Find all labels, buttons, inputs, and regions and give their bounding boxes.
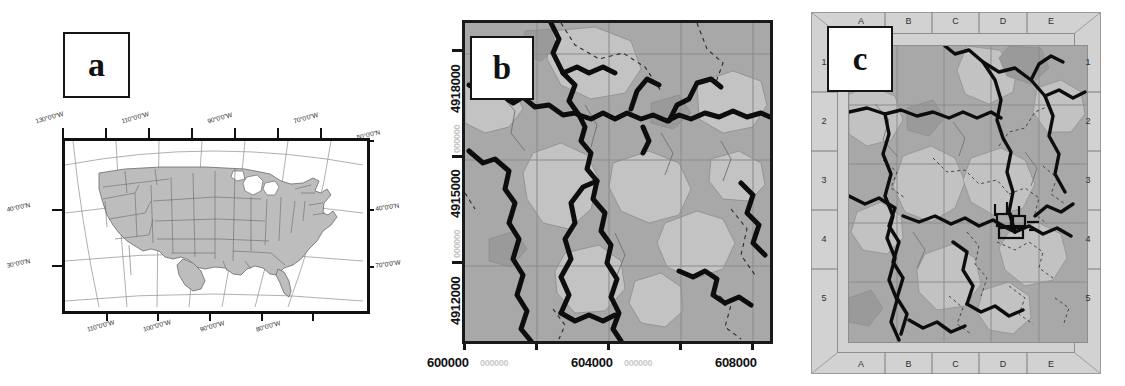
panel-b-label-text: b [493,52,511,85]
c-row-label-right-2: 2 [1075,117,1101,126]
c-row-label-right-5: 5 [1075,294,1101,303]
c-col-label-bottom-c: C [932,360,979,369]
a-axis-label-top-2: 110°0'0"W [121,110,150,124]
a-axis-label-left-2: 30°0'0"N [6,257,31,269]
b-yaxis-label-4918000: 4918000 [448,64,463,113]
figure-three-panel-map: a 130°0'0"W 110°0'0"W 90°0'0"W 70°0'0"W … [0,0,1125,386]
b-yaxis-label-4912000: 4912000 [448,276,463,325]
a-tick-top-3 [148,128,150,138]
a-tick-top-5 [234,128,236,138]
a-tick-top-1 [62,128,64,138]
b-xaxis-label-604000: 604000 [571,355,613,370]
c-col-label-top-b: B [885,17,932,26]
a-axis-label-right-2: 40°0'0"N [375,202,399,212]
panel-a-label-box: a [63,32,130,98]
c-col-label-bottom-e: E [1027,360,1075,369]
c-col-label-top-c: C [932,17,979,26]
c-col-label-bottom-a: A [837,360,885,369]
panel-b-label-box: b [470,36,534,100]
c-row-label-left-4: 4 [811,235,837,244]
a-tick-top-6 [277,128,279,138]
a-axis-label-bottom-4: 80°0'0"W [255,319,281,333]
panel-a-label-text: a [88,48,105,82]
a-axis-label-bottom-3: 90°0'0"W [199,319,225,333]
b-yaxis-minor-label-1: 000000 [452,125,462,153]
b-xaxis-minor-label-2: 000000 [624,358,652,368]
panel-b: 4918000 000000 4915000 000000 4912000 60… [430,0,800,386]
b-xaxis-minor-label-1: 000000 [480,358,508,368]
a-axis-label-left-1: 40°0'0"N [6,201,31,213]
c-row-label-right-4: 4 [1075,235,1101,244]
c-col-label-bottom-d: D [979,360,1027,369]
a-tick-top-4 [191,128,193,138]
c-row-label-left-5: 5 [811,294,837,303]
a-axis-label-right-3: 70°0'0"W [375,258,401,268]
panel-c: A B C D E A B C D E 1 2 3 4 5 1 2 3 4 5 [800,0,1125,386]
panel-c-label-box: c [827,26,893,92]
a-map-frame [62,138,370,314]
c-row-label-right-3: 3 [1075,176,1101,185]
a-axis-label-top-4: 70°0'0"W [293,111,319,125]
c-col-label-top-e: E [1027,17,1075,26]
b-yaxis-label-4915000: 4915000 [448,169,463,218]
b-xaxis-label-608000: 608000 [715,355,757,370]
c-row-label-left-3: 3 [811,176,837,185]
panel-c-label-text: c [853,43,868,76]
c-col-label-top-d: D [979,17,1027,26]
c-col-label-top-a: A [837,17,885,26]
a-axis-label-bottom-1: 110°0'0"W [86,318,115,332]
b-yaxis-minor-label-2: 000000 [452,230,462,258]
b-xaxis-label-600000: 600000 [427,355,469,370]
a-usa-map-svg [65,141,363,307]
a-tick-top-7 [320,128,322,138]
panel-a: a 130°0'0"W 110°0'0"W 90°0'0"W 70°0'0"W … [0,0,430,386]
a-axis-label-top-1: 130°0'0"W [35,110,64,125]
c-row-label-right-1: 1 [1075,58,1101,67]
c-row-label-left-2: 2 [811,117,837,126]
c-col-label-bottom-b: B [885,360,932,369]
a-axis-label-top-3: 90°0'0"W [207,111,233,125]
a-tick-top-2 [105,128,107,138]
